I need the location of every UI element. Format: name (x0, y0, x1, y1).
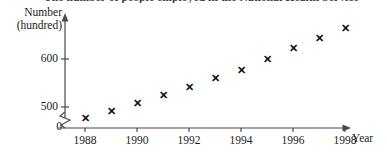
data-point-marker: ✕ (159, 89, 168, 101)
plot-area: ✕✕✕✕✕✕✕✕✕✕✕ (0, 0, 387, 154)
data-point-marker: ✕ (315, 32, 324, 44)
data-point-marker: ✕ (133, 97, 142, 109)
data-point-marker: ✕ (263, 53, 272, 65)
data-point-group: ✕✕✕✕✕✕✕✕✕✕✕ (81, 22, 350, 124)
data-point-marker: ✕ (185, 81, 194, 93)
data-point-marker: ✕ (289, 42, 298, 54)
data-point-marker: ✕ (81, 112, 90, 124)
data-point-marker: ✕ (237, 64, 246, 76)
chart-screenshot: The number of people employed in the Nat… (0, 0, 387, 154)
x-axis-arrow-icon (343, 125, 352, 132)
data-point-marker: ✕ (107, 105, 116, 117)
y-axis-arrow-icon (62, 13, 69, 22)
data-point-marker: ✕ (341, 22, 350, 34)
data-point-marker: ✕ (211, 72, 220, 84)
